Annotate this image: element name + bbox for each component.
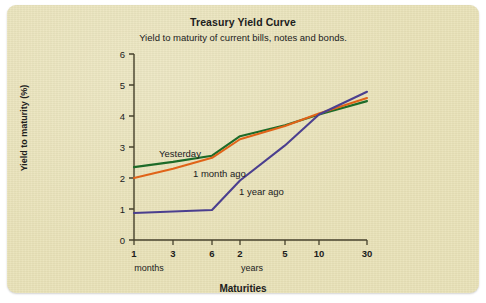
series-annotations: Yesterday1 month ago1 year ago bbox=[159, 148, 284, 197]
x-tick-label: 6 bbox=[209, 248, 214, 259]
y-tick-label: 5 bbox=[120, 80, 125, 91]
x-tick-label: 3 bbox=[170, 248, 175, 259]
x-tick-label: 5 bbox=[282, 248, 288, 259]
y-tick-label: 3 bbox=[120, 142, 125, 153]
series-annotation: Yesterday bbox=[159, 148, 201, 159]
y-tick-label-group: 0123456 bbox=[120, 49, 125, 246]
y-tick-label: 1 bbox=[120, 204, 125, 215]
x-group-label-group: monthsyears bbox=[134, 263, 263, 273]
x-tick-label: 10 bbox=[314, 248, 325, 259]
y-tick-group bbox=[129, 54, 134, 240]
series-annotation: 1 month ago bbox=[193, 168, 246, 179]
y-tick-label: 2 bbox=[120, 173, 125, 184]
x-tick-label: 2 bbox=[237, 248, 242, 259]
plot-area: 0123456 136251030 monthsyears Yesterday1… bbox=[7, 5, 479, 293]
x-group-label: years bbox=[241, 263, 264, 273]
x-tick-label: 30 bbox=[362, 248, 373, 259]
y-tick-label: 4 bbox=[120, 111, 125, 122]
y-tick-label: 6 bbox=[120, 49, 125, 60]
chart-card: Treasury Yield Curve Yield to maturity o… bbox=[7, 5, 479, 293]
x-tick-label-group: 136251030 bbox=[131, 248, 372, 259]
x-tick-label: 1 bbox=[131, 248, 137, 259]
x-group-label: months bbox=[134, 263, 164, 273]
series-line bbox=[134, 98, 367, 178]
y-tick-label: 0 bbox=[120, 235, 125, 246]
series-annotation: 1 year ago bbox=[239, 186, 284, 197]
x-tick-group bbox=[134, 240, 367, 245]
